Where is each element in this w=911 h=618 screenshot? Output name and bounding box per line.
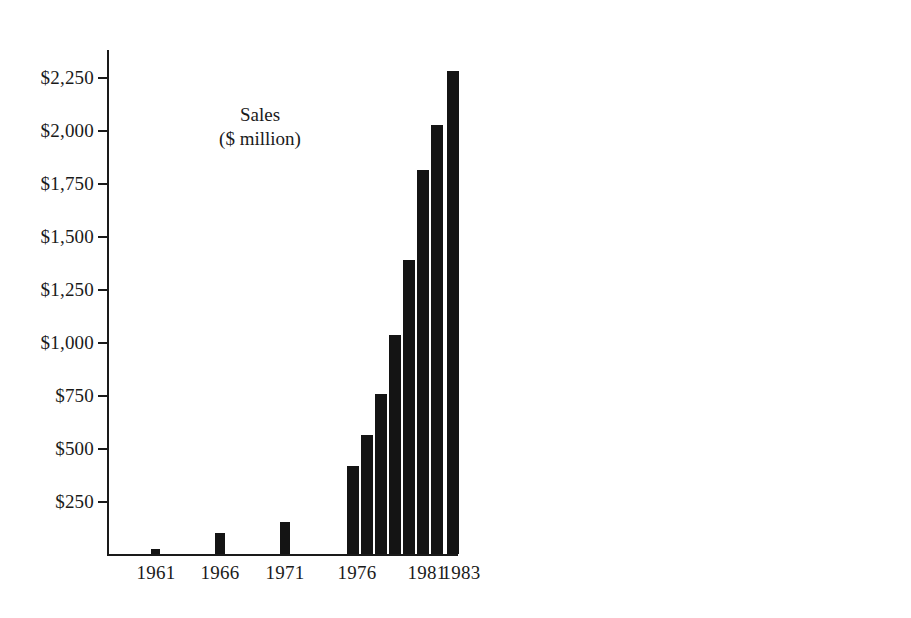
y-tick-label: $1,000 [41,332,94,351]
y-tick-mark [98,448,109,450]
x-tick-label-sales-1981: 1981 [408,563,447,582]
y-tick-mark [98,342,109,344]
bar-sales-1980 [403,260,415,554]
y-tick-label: $500 [55,438,94,457]
bar-sales-1966 [215,533,225,554]
figure-two-bar-charts: Sales ($ million) $2,250$2,000$1,750$1,5… [0,0,911,618]
y-tick-mark [98,130,109,132]
bar-sales-1978 [375,394,387,554]
y-tick-mark [98,77,109,79]
bar-sales-1961 [151,549,160,554]
y-tick-label: $2,250 [41,67,94,86]
bar-sales-1981 [417,170,429,554]
y-tick-label: $2,000 [41,120,94,139]
chart-panel-marketcap: Market capitalization ($ million) $2,250… [455,0,911,618]
y-tick-label: $1,250 [41,279,94,298]
y-axis-line-sales [107,50,109,556]
y-tick-label: $750 [55,385,94,404]
x-tick-label-sales-1961: 1961 [137,563,176,582]
y-tick-mark [98,183,109,185]
x-tick-label-sales-1976: 1976 [338,563,377,582]
y-tick-mark [98,236,109,238]
x-tick-label-sales-1966: 1966 [201,563,240,582]
bar-sales-1971 [280,522,290,554]
plot-area-sales: $2,250$2,000$1,750$1,500$1,250$1,000$750… [107,50,458,556]
y-tick-mark [98,289,109,291]
y-tick-label: $1,750 [41,173,94,192]
bar-sales-1977 [361,435,373,554]
y-tick-label: $250 [55,491,94,510]
y-tick-mark [98,501,109,503]
x-tick-label-sales-1971: 1971 [266,563,305,582]
bar-sales-1982 [431,125,443,554]
bar-sales-1976 [347,466,359,554]
y-tick-label: $1,500 [41,226,94,245]
x-axis-line-sales [107,554,458,556]
chart-panel-sales: Sales ($ million) $2,250$2,000$1,750$1,5… [0,0,470,618]
bar-sales-1979 [389,335,401,554]
y-tick-mark [98,395,109,397]
